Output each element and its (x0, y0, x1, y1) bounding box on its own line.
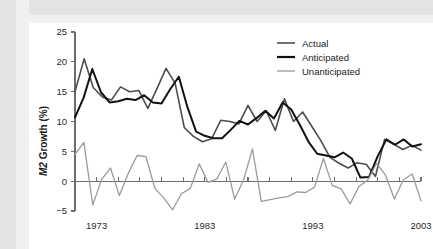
figure-root: M2 Growth (%) −50510152025 1973198319932… (0, 0, 433, 249)
page-margin-left-inner (16, 0, 29, 249)
y-axis: −50510152025 (56, 26, 75, 216)
x-tick-label: 1993 (302, 220, 323, 231)
y-axis-title-italic: M2 (38, 162, 49, 176)
y-tick-label: 0 (62, 176, 67, 187)
series-line-actual (75, 59, 421, 177)
legend-label-anticipated: Anticipated (302, 52, 349, 63)
y-tick-label: −5 (56, 205, 67, 216)
series-line-unanticipated (75, 142, 421, 209)
chart-card: M2 Growth (%) −50510152025 1973198319932… (29, 23, 433, 249)
chart-legend: ActualAnticipatedUnanticipated (277, 38, 360, 77)
series-line-anticipated (75, 69, 421, 178)
y-tick-label: 15 (56, 86, 67, 97)
y-tick-label: 25 (56, 26, 67, 37)
x-axis: 1973198319932003 (75, 177, 432, 231)
y-axis-title-roman: Growth (%) (38, 106, 49, 162)
page-margin-left (0, 0, 16, 249)
legend-label-actual: Actual (302, 38, 328, 49)
svg-text:M2 Growth (%): M2 Growth (%) (38, 106, 49, 176)
x-tick-label: 1983 (194, 220, 215, 231)
page-margin-top (0, 0, 433, 15)
y-tick-label: 20 (56, 56, 67, 67)
m2-growth-line-chart: M2 Growth (%) −50510152025 1973198319932… (29, 23, 433, 249)
x-tick-label: 1973 (86, 220, 107, 231)
series-lines (75, 59, 421, 210)
y-axis-title: M2 Growth (%) (38, 106, 49, 176)
y-tick-label: 10 (56, 116, 67, 127)
x-tick-label: 2003 (410, 220, 431, 231)
page-margin-top-inner (0, 15, 433, 23)
y-tick-label: 5 (62, 146, 67, 157)
legend-label-unanticipated: Unanticipated (302, 66, 360, 77)
